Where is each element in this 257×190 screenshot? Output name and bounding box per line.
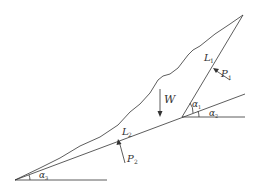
slope-wedge-diagram: W L 1 L 2 P 1 P 2 α 1 α 2 α 3: [0, 0, 257, 190]
label-alpha2-sub: 2: [215, 113, 218, 119]
label-P1-sub: 1: [228, 74, 232, 81]
angle-arc-alpha2: [198, 111, 199, 117]
weight-arrow-head-icon: [158, 111, 163, 117]
label-P1: P: [220, 68, 228, 79]
angle-arc-alpha3: [29, 175, 30, 180]
label-W: W: [164, 93, 177, 106]
label-P2: P: [126, 153, 134, 164]
label-P2-sub: 2: [134, 158, 138, 165]
force-P2-arrow-head-icon: [117, 139, 122, 145]
label-alpha3-sub: 3: [45, 175, 48, 181]
label-alpha1-sub: 1: [198, 104, 201, 110]
label-L1-sub: 1: [210, 57, 214, 64]
label-L2-sub: 2: [128, 131, 132, 138]
